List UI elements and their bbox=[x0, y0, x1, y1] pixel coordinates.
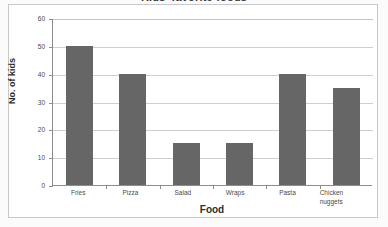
y-axis-tick-label: 20 bbox=[23, 126, 45, 133]
y-axis-tick-label: 60 bbox=[23, 15, 45, 22]
y-axis-tickmark bbox=[49, 186, 53, 187]
bar bbox=[66, 46, 93, 185]
bar-slot bbox=[266, 18, 319, 185]
chart-title: Kids' favorite foods bbox=[0, 0, 388, 3]
plot-area: 0102030405060 bbox=[52, 19, 372, 186]
bar-slot bbox=[106, 18, 159, 185]
bar bbox=[173, 143, 200, 185]
bar-slot bbox=[160, 18, 213, 185]
y-axis-tick-label: 10 bbox=[23, 154, 45, 161]
bar bbox=[333, 88, 360, 185]
bar-slot bbox=[320, 18, 373, 185]
bar bbox=[119, 74, 146, 185]
bar-slot bbox=[53, 18, 106, 185]
bar bbox=[279, 74, 306, 185]
y-axis-tick-label: 30 bbox=[23, 99, 45, 106]
y-axis-tick-label: 50 bbox=[23, 43, 45, 50]
y-axis-title: No. of kids bbox=[7, 41, 17, 121]
bar-slot bbox=[213, 18, 266, 185]
x-axis-title: Food bbox=[52, 204, 372, 215]
y-axis-tick-label: 0 bbox=[23, 182, 45, 189]
y-axis-tick-label: 40 bbox=[23, 71, 45, 78]
bar-series bbox=[53, 18, 373, 185]
bar bbox=[226, 143, 253, 185]
chart-screenshot: Kids' favorite foods No. of kids 0102030… bbox=[0, 0, 388, 227]
